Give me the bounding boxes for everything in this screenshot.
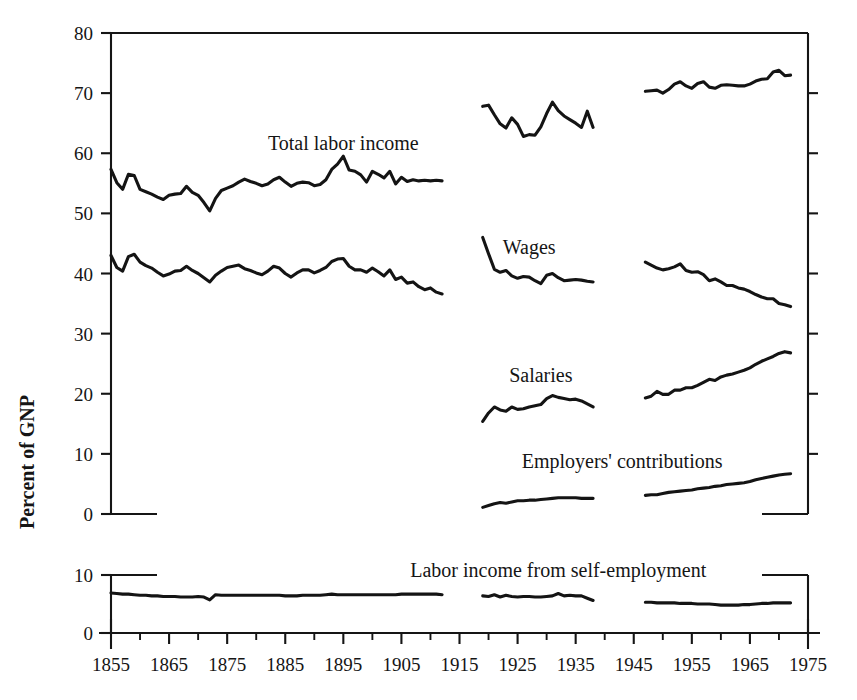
- x-tick-label: 1965: [731, 654, 769, 675]
- x-tick-label: 1905: [382, 654, 420, 675]
- series-segment: [645, 602, 790, 605]
- y-tick-label-upper: 0: [84, 504, 94, 525]
- series-salaries: [483, 352, 791, 422]
- series-total-labor-income: [111, 70, 791, 211]
- chart-figure: 0102030405060708001018551865187518851895…: [0, 0, 857, 700]
- series-segment: [483, 102, 593, 136]
- series-wages: [111, 237, 791, 306]
- y-tick-label-lower: 0: [84, 623, 94, 644]
- series-annotation: Wages: [503, 236, 556, 259]
- y-tick-label-upper: 80: [74, 23, 93, 44]
- x-tick-label: 1915: [441, 654, 479, 675]
- series-annotation: Employers' contributions: [522, 450, 723, 473]
- series-segment: [483, 498, 593, 508]
- series-segment: [483, 594, 593, 601]
- x-tick-label: 1885: [266, 654, 304, 675]
- series-segment: [645, 70, 790, 93]
- x-tick-label: 1975: [789, 654, 827, 675]
- y-axis-title: Percent of GNP: [16, 395, 38, 529]
- y-tick-label-lower: 10: [74, 565, 93, 586]
- series-segment: [111, 593, 442, 600]
- series-segment: [483, 396, 593, 422]
- series-segment: [111, 156, 442, 211]
- series-segment: [645, 262, 790, 306]
- series-segment: [111, 254, 442, 294]
- x-tick-label: 1865: [150, 654, 188, 675]
- chart-canvas: 0102030405060708001018551865187518851895…: [0, 0, 857, 700]
- x-tick-label: 1935: [557, 654, 595, 675]
- series-labor-income-from-self-employment: [111, 593, 791, 605]
- y-tick-label-upper: 50: [74, 203, 93, 224]
- annotation-layer: Total labor incomeWagesSalariesEmployers…: [268, 132, 723, 582]
- series-layer: [111, 70, 791, 605]
- series-segment: [645, 474, 790, 496]
- series-annotation: Total labor income: [268, 132, 419, 154]
- series-annotation: Labor income from self-employment: [410, 559, 706, 582]
- x-tick-label: 1895: [324, 654, 362, 675]
- y-tick-label-upper: 40: [74, 264, 93, 285]
- y-tick-label-upper: 60: [74, 143, 93, 164]
- series-employers-contributions: [483, 474, 791, 508]
- y-tick-label-upper: 20: [74, 384, 93, 405]
- x-tick-label: 1945: [615, 654, 653, 675]
- series-annotation: Salaries: [509, 364, 573, 386]
- y-tick-label-upper: 70: [74, 83, 93, 104]
- y-tick-label-upper: 10: [74, 444, 93, 465]
- x-tick-label: 1955: [673, 654, 711, 675]
- x-tick-label: 1925: [499, 654, 537, 675]
- y-tick-label-upper: 30: [74, 324, 93, 345]
- x-tick-label: 1855: [92, 654, 130, 675]
- series-segment: [645, 352, 790, 398]
- x-tick-label: 1875: [208, 654, 246, 675]
